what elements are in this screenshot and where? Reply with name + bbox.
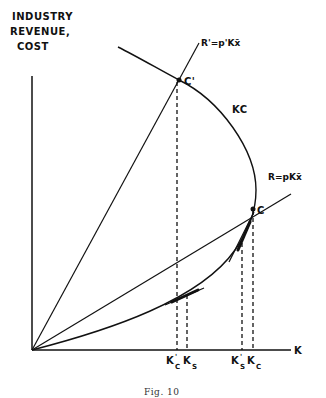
x-tick-ks: K S [183, 355, 197, 371]
svg-text:': ' [175, 353, 177, 361]
x-tick-kc: K C [247, 355, 261, 371]
tangent-segment-ks-prime [238, 222, 250, 250]
c-prime-label: C' [184, 76, 195, 87]
svg-text:C: C [175, 363, 180, 371]
svg-text:K: K [166, 355, 175, 366]
svg-text:COST: COST [17, 41, 49, 52]
x-tick-ks-prime: K ' S [231, 353, 245, 371]
r-prime-revenue-line [32, 43, 199, 350]
tangent-line-ks [165, 288, 204, 305]
svg-text:REVENUE,: REVENUE, [10, 26, 70, 37]
y-axis-label: INDUSTRY REVENUE, COST [10, 11, 73, 52]
tangent-line-ks-prime [229, 212, 254, 262]
c-label: C [257, 205, 265, 216]
svg-text:INDUSTRY: INDUSTRY [12, 11, 73, 22]
svg-text:S: S [240, 363, 245, 371]
svg-text:K: K [231, 355, 240, 366]
point-c-prime [177, 78, 182, 83]
point-c [251, 207, 256, 212]
svg-text:S: S [192, 363, 197, 371]
figure-caption: Fig. 10 [144, 387, 180, 397]
figure-10-diagram: INDUSTRY REVENUE, COST K R'=p'Kx̄ R=pKx̄… [0, 0, 326, 398]
svg-text:K: K [247, 355, 256, 366]
kc-cost-curve [32, 47, 256, 350]
svg-text:': ' [240, 353, 242, 361]
x-tick-kc-prime: K ' C [166, 353, 180, 371]
svg-text:C: C [256, 363, 261, 371]
r-label: R=pKx̄ [268, 172, 302, 182]
r-prime-label: R'=p'Kx̄ [201, 38, 240, 48]
svg-text:K: K [183, 355, 192, 366]
x-axis-label: K [294, 345, 303, 356]
kc-label: KC [232, 104, 248, 115]
